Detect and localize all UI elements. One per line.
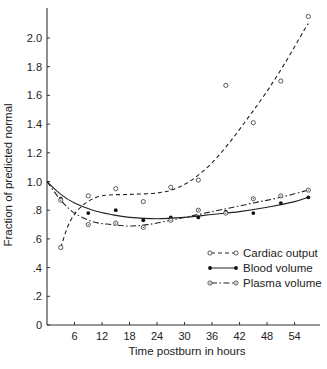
cardiac-output-point bbox=[86, 194, 90, 198]
x-tick-label: 18 bbox=[123, 330, 135, 342]
cardiac-output-point bbox=[306, 14, 310, 18]
cardiac-output-point bbox=[141, 199, 145, 203]
plasma-volume-point-dot bbox=[88, 224, 89, 225]
cardiac-output-point bbox=[279, 79, 283, 83]
y-tick-label: 1.2 bbox=[27, 147, 42, 159]
y-tick-label: 1.6 bbox=[27, 89, 42, 101]
plasma-volume-curve bbox=[47, 182, 308, 227]
legend-marker bbox=[208, 251, 212, 255]
axes: 612182430364248540.2.4.6.81.01.21.41.61.… bbox=[27, 8, 320, 342]
x-tick-label: 36 bbox=[206, 330, 218, 342]
cardiac-output-point bbox=[224, 83, 228, 87]
plasma-volume-point-dot bbox=[308, 190, 309, 191]
plasma-volume-point-dot bbox=[170, 220, 171, 221]
data-markers bbox=[59, 14, 311, 249]
legend-label: Blood volume bbox=[243, 262, 313, 274]
y-tick-label: .2 bbox=[33, 290, 42, 302]
line-chart: 612182430364248540.2.4.6.81.01.21.41.61.… bbox=[0, 0, 327, 369]
blood-volume-point bbox=[279, 201, 283, 205]
blood-volume-point bbox=[306, 195, 310, 199]
plasma-volume-point-dot bbox=[198, 210, 199, 211]
cardiac-output-point bbox=[114, 187, 118, 191]
legend-marker bbox=[234, 251, 238, 255]
blood-volume-point bbox=[141, 218, 145, 222]
blood-volume-point bbox=[114, 208, 118, 212]
fit-curves bbox=[47, 24, 308, 248]
y-tick-label: 0 bbox=[36, 319, 42, 331]
y-tick-label: 1.4 bbox=[27, 118, 42, 130]
plasma-volume-point-dot bbox=[143, 227, 144, 228]
legend-marker bbox=[208, 266, 212, 270]
x-tick-label: 42 bbox=[233, 330, 245, 342]
y-tick-label: .4 bbox=[33, 262, 42, 274]
legend-marker-dot bbox=[209, 282, 210, 283]
legend-label: Plasma volume bbox=[243, 277, 322, 289]
plasma-volume-point-dot bbox=[253, 198, 254, 199]
legend-item-blood-volume: Blood volume bbox=[208, 262, 313, 274]
legend-label: Cardiac output bbox=[243, 247, 319, 259]
y-tick-label: .6 bbox=[33, 233, 42, 245]
legend-item-plasma-volume: Plasma volume bbox=[208, 277, 322, 289]
blood-volume-point bbox=[196, 215, 200, 219]
plasma-volume-point-dot bbox=[225, 212, 226, 213]
blood-volume-point bbox=[86, 211, 90, 215]
y-tick-label: .8 bbox=[33, 204, 42, 216]
y-tick-label: 1.0 bbox=[27, 176, 42, 188]
x-tick-label: 24 bbox=[151, 330, 163, 342]
y-tick-label: 1.8 bbox=[27, 61, 42, 73]
cardiac-output-point bbox=[251, 121, 255, 125]
cardiac-output-point bbox=[59, 245, 63, 249]
x-tick-label: 54 bbox=[288, 330, 300, 342]
cardiac-output-point bbox=[196, 178, 200, 182]
x-tick-label: 48 bbox=[261, 330, 273, 342]
x-tick-label: 12 bbox=[96, 330, 108, 342]
cardiac-output-curve bbox=[61, 24, 308, 248]
x-tick-label: 30 bbox=[178, 330, 190, 342]
legend-marker-dot bbox=[235, 282, 236, 283]
legend-item-cardiac-output: Cardiac output bbox=[208, 247, 319, 259]
y-axis-title: Fraction of predicted normal bbox=[2, 103, 14, 246]
x-tick-label: 6 bbox=[71, 330, 77, 342]
x-axis-title: Time postburn in hours bbox=[128, 345, 245, 357]
blood-volume-point bbox=[251, 211, 255, 215]
y-tick-label: 2.0 bbox=[27, 32, 42, 44]
plasma-volume-point-dot bbox=[280, 195, 281, 196]
plasma-volume-point-dot bbox=[60, 200, 61, 201]
legend-marker bbox=[234, 266, 238, 270]
plasma-volume-point-dot bbox=[115, 223, 116, 224]
legend: Cardiac outputBlood volumePlasma volume bbox=[208, 247, 322, 289]
cardiac-output-point bbox=[169, 185, 173, 189]
